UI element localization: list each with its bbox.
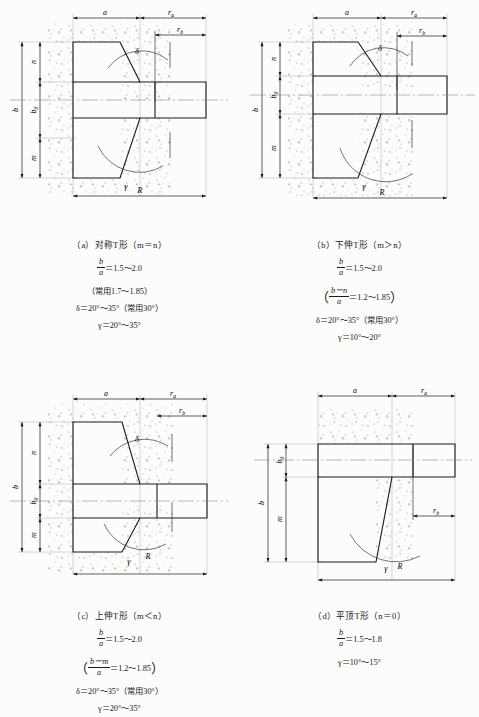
diagram-panel-c: a ra rb b n b0 m (0, 380, 239, 717)
diagram-panel-b: a ra rb b n b0 m (240, 0, 479, 358)
svg-text:rb: rb (179, 406, 185, 416)
frac-num: b (97, 628, 105, 639)
diagram-panel-d: a ra rb b b0 m (240, 380, 479, 717)
caption-title-b: （b）下伸T形（m＞n） (240, 241, 479, 250)
frac-num: b (97, 257, 105, 268)
dim-label-b: b (251, 108, 260, 112)
note-frac-den: a (88, 668, 110, 678)
figure-page: a ra rb b n b0 (0, 0, 479, 717)
frac-den: a (337, 268, 345, 278)
dim-label-R: R (379, 188, 385, 197)
caption-note-b: （b－na＝1.2～1.85） (240, 288, 479, 308)
dim-label-b: b (257, 501, 266, 505)
dim-label-n: n (29, 451, 38, 455)
dim-label-b0-sub: 0 (273, 91, 279, 94)
svg-text:b0: b0 (29, 106, 39, 113)
note-frac-value: ＝1.2～1.85 (349, 293, 390, 302)
caption-note-c: （b－ma＝1.2～1.85） (0, 659, 239, 679)
caption-title-c: （c）上伸T形（m＜n） (0, 612, 239, 621)
frac-value: ＝1.5～2.0 (345, 264, 382, 273)
note-frac-value: ＝1.2～1.85 (110, 664, 151, 673)
caption-title-d: （d）平顶T形（n＝0） (240, 612, 479, 621)
drawing-b: a ra rb b n b0 m (240, 0, 479, 240)
drawing-c: a ra rb b n b0 m (0, 380, 239, 620)
svg-text:ra: ra (170, 389, 176, 399)
dim-label-b: b (11, 485, 20, 489)
dim-label-b0-sub: 0 (33, 106, 39, 109)
dim-label-rb-sub: b (180, 29, 183, 35)
caption-title-a: （a）对称T形（m＝n） (0, 241, 239, 250)
caption-formula-c: ba＝1.5～2.0 (0, 630, 239, 650)
dim-label-rb-sub: b (422, 30, 425, 36)
dim-label-ra-sub: a (414, 12, 417, 18)
note-frac-den: a (329, 297, 349, 307)
dim-label-a: a (103, 8, 107, 17)
caption-gamma-c: γ＝20°～35° (0, 705, 239, 713)
dim-label-a: a (345, 8, 349, 17)
svg-text:ra: ra (411, 8, 417, 18)
concrete-hatch (288, 24, 313, 196)
dim-label-b: b (11, 108, 20, 112)
dim-label-b0-sub: 0 (279, 456, 285, 459)
dim-label-b0-sub: 0 (33, 497, 39, 500)
frac-den: a (97, 268, 105, 278)
dim-label-m: m (275, 516, 284, 522)
dim-label-ra-sub: a (424, 390, 427, 396)
frac-value: ＝1.5～2.0 (105, 635, 142, 644)
caption-c: （c）上伸T形（m＜n） ba＝1.5～2.0 （b－ma＝1.2～1.85） … (0, 612, 239, 713)
drawing-a: a ra rb b n b0 (0, 0, 239, 240)
frac-num: b (337, 628, 345, 639)
svg-text:rb: rb (177, 25, 183, 35)
dim-label-rb-sub: b (436, 510, 439, 516)
caption-delta-a: δ＝20°～35°（常用30°） (0, 305, 239, 313)
caption-note-a: （常用1.7～1.85） (0, 288, 239, 296)
dim-label-a: a (353, 386, 357, 395)
frac-den: a (97, 639, 105, 649)
frac-value: ＝1.5～1.8 (345, 635, 382, 644)
svg-text:ra: ra (421, 386, 427, 396)
svg-text:rb: rb (433, 506, 439, 516)
caption-formula-a: ba＝1.5～2.0 (0, 259, 239, 279)
dim-label-a: a (104, 389, 108, 398)
dim-label-ra-sub: a (171, 12, 174, 18)
caption-d: （d）平顶T形（n＝0） ba＝1.5～1.8 γ＝10°～15° (240, 612, 479, 667)
angle-label-gamma: γ (384, 563, 388, 573)
caption-a: （a）对称T形（m＝n） ba＝1.5～2.0 （常用1.7～1.85） δ＝2… (0, 241, 239, 331)
svg-text:ra: ra (168, 8, 174, 18)
caption-delta-c: δ＝20°～35°（常用30°） (0, 688, 239, 696)
dim-label-R: R (145, 552, 151, 561)
dim-label-n: n (269, 57, 278, 61)
caption-formula-d: ba＝1.5～1.8 (240, 630, 479, 650)
note-frac-num: b－m (88, 657, 110, 668)
drawing-d: a ra rb b b0 m (240, 380, 479, 620)
caption-delta-b: δ＝20°～35°（常用30°） (240, 317, 479, 325)
concrete-hatch (48, 404, 73, 572)
caption-b: （b）下伸T形（m＞n） ba＝1.5～2.0 （b－na＝1.2～1.85） … (240, 241, 479, 342)
dim-label-m: m (29, 532, 38, 538)
dim-label-R: R (397, 562, 403, 571)
frac-value: ＝1.5～2.0 (105, 264, 142, 273)
note-frac-num: b－n (329, 286, 349, 297)
caption-formula-b: ba＝1.5～2.0 (240, 259, 479, 279)
concrete-hatch (318, 409, 413, 444)
diagram-panel-a: a ra rb b n b0 (0, 0, 239, 358)
dim-label-m: m (29, 155, 38, 161)
caption-gamma-d: γ＝10°～15° (240, 659, 479, 667)
caption-gamma-a: γ＝20°～35° (0, 322, 239, 330)
frac-den: a (337, 639, 345, 649)
dim-label-ra-sub: a (173, 393, 176, 399)
svg-text:rb: rb (419, 26, 425, 36)
concrete-hatch (48, 22, 73, 194)
dim-label-m: m (269, 145, 278, 151)
caption-gamma-b: γ＝10°～20° (240, 334, 479, 342)
dim-label-R: R (137, 186, 143, 195)
dim-label-n: n (29, 60, 38, 64)
frac-num: b (337, 257, 345, 268)
dim-label-rb-sub: b (182, 410, 185, 416)
